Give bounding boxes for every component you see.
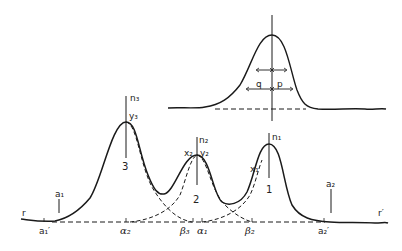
label-n3: n₃ <box>130 93 140 103</box>
label-n1: n₁ <box>272 132 282 142</box>
peak2-component-right <box>197 155 252 222</box>
label-r-prime: r′ <box>378 208 384 218</box>
label-y3: y₃ <box>129 111 138 121</box>
peak3-component-right <box>126 122 192 222</box>
label-a2: a₂ <box>326 179 336 189</box>
label-n2: n₂ <box>199 135 209 145</box>
label-peak-2: 2 <box>193 194 199 205</box>
label-r: r <box>22 208 26 218</box>
label-p: p <box>277 79 283 89</box>
inset-curve <box>168 35 386 109</box>
label-beta2: β₂ <box>244 225 255 236</box>
label-a1: a₁ <box>55 189 65 199</box>
label-a1-prime: a₁′ <box>39 226 50 236</box>
label-peak-3: 3 <box>122 161 128 172</box>
chromatogram-diagram: q p n₃ y₃ 3 n₂ x₂ y₂ 2 n₁ x <box>0 0 402 251</box>
label-x2: x₂ <box>184 148 193 158</box>
label-x1: x₁ <box>250 164 259 174</box>
peak2-component-left <box>130 155 197 222</box>
label-y2: y₂ <box>200 148 209 158</box>
label-alpha2: α₂ <box>120 225 131 236</box>
label-q: q <box>256 79 262 89</box>
main-chromatogram <box>21 96 388 223</box>
label-peak-1: 1 <box>266 184 272 195</box>
label-a2-prime: a₂′ <box>318 226 329 236</box>
label-beta3: β₃ <box>179 225 190 236</box>
label-alpha1: α₁ <box>197 225 208 236</box>
inset-peak-figure <box>168 15 386 121</box>
